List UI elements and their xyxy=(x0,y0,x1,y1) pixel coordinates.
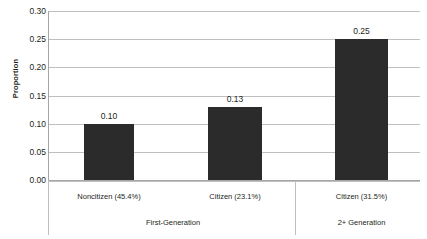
y-tick-label: 0.05 xyxy=(2,148,46,157)
y-tick-label: 0.15 xyxy=(2,92,46,101)
bar-value-label: 0.13 xyxy=(205,95,265,104)
group-label: 2+ Generation xyxy=(302,219,422,227)
bar xyxy=(84,124,134,180)
band-top-border xyxy=(49,181,420,182)
bar xyxy=(335,39,388,180)
bar xyxy=(208,107,262,180)
y-tick-label: 0.30 xyxy=(2,7,46,16)
category-label: Citizen (31.5%) xyxy=(302,193,422,201)
bar-value-label: 0.10 xyxy=(79,112,139,121)
plot-area: 0.100.130.25 xyxy=(49,11,420,180)
category-label: Citizen (23.1%) xyxy=(175,193,295,201)
y-tick-label: 0.20 xyxy=(2,63,46,72)
y-axis-tick-labels: 0.300.250.200.150.100.050.00 xyxy=(0,0,46,239)
y-tick-label: 0.25 xyxy=(2,35,46,44)
group-separator xyxy=(295,181,296,235)
bar-chart-figure: Proportion 0.300.250.200.150.100.050.00 … xyxy=(0,0,427,239)
y-tick-label: 0.10 xyxy=(2,120,46,129)
y-tick-label: 0.00 xyxy=(2,176,46,185)
bar-value-label: 0.25 xyxy=(332,27,392,36)
group-label: First-Generation xyxy=(113,219,233,227)
gridline xyxy=(49,11,420,12)
category-label-band: Noncitizen (45.4%)Citizen (23.1%)Citizen… xyxy=(49,181,420,235)
category-label: Noncitizen (45.4%) xyxy=(49,193,169,201)
